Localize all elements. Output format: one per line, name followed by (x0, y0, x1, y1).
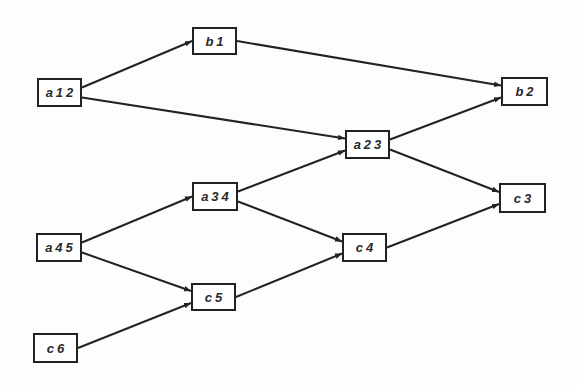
node-label: b1 (202, 34, 226, 49)
node-label: b2 (512, 84, 536, 99)
node-label: c4 (353, 240, 376, 255)
edge-a12-to-b1 (82, 41, 192, 88)
node-a45: a45 (36, 233, 82, 262)
node-b2: b2 (501, 77, 548, 106)
edge-a45-to-c5 (82, 253, 191, 292)
edge-c5-to-c4 (236, 254, 342, 298)
diagram-canvas: a12b1b2a23a34c3a45c4c5c6 (0, 0, 578, 386)
edge-a34-to-a23 (238, 151, 345, 192)
node-c3: c3 (499, 183, 546, 213)
edge-a23-to-b2 (390, 98, 501, 140)
node-c6: c6 (33, 333, 78, 363)
edge-a12-to-a23 (82, 98, 345, 139)
node-b1: b1 (192, 27, 237, 55)
node-c5: c5 (191, 283, 236, 311)
edge-a23-to-c3 (390, 150, 499, 193)
node-label: a23 (351, 137, 385, 152)
node-label: a45 (42, 240, 76, 255)
edge-c4-to-c3 (387, 204, 499, 248)
edge-c6-to-c5 (78, 303, 191, 348)
node-label: a34 (198, 189, 232, 204)
edges-layer (0, 0, 578, 386)
node-label: c6 (44, 341, 67, 356)
node-a23: a23 (345, 130, 390, 159)
node-label: c3 (511, 191, 534, 206)
node-a34: a34 (192, 182, 238, 211)
node-c4: c4 (342, 233, 387, 262)
edge-b1-to-b2 (237, 41, 501, 86)
node-label: a12 (43, 85, 77, 100)
node-a12: a12 (37, 78, 82, 107)
edge-a45-to-a34 (82, 197, 192, 243)
edge-a34-to-c4 (238, 202, 342, 242)
node-label: c5 (202, 290, 225, 305)
